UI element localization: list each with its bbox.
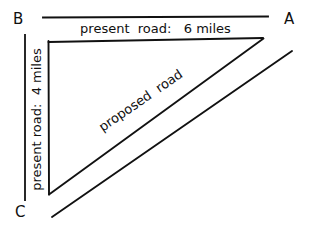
side-road-measure-label: present road: 4 miles: [29, 35, 44, 205]
road-triangle-figure: B A C present road: 6 miles present road…: [0, 0, 319, 236]
triangle-edge-left: [49, 41, 50, 195]
triangle-edge-top: [49, 38, 264, 42]
top-dimension-line: [43, 17, 268, 18]
vertex-label-b: B: [13, 12, 23, 27]
top-road-measure-label: present road: 6 miles: [43, 21, 268, 36]
vertex-label-c: C: [15, 205, 25, 220]
vertex-label-a: A: [284, 12, 294, 27]
triangle-edge-hypotenuse: [49, 39, 264, 195]
